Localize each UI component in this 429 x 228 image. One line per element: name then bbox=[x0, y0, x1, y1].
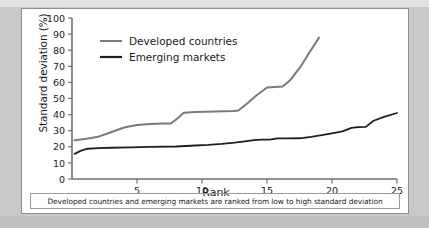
y-tick-label: 20 bbox=[53, 141, 65, 152]
y-tick-label: 70 bbox=[53, 61, 65, 72]
page-background-top-strip bbox=[0, 0, 429, 7]
y-tick-label: 10 bbox=[53, 158, 65, 169]
y-tick-label: 40 bbox=[53, 109, 65, 120]
figure-caption-band: Developed countries and emerging markets… bbox=[30, 193, 400, 209]
page-background-bottom-strip bbox=[0, 216, 429, 228]
legend-label-0: Developed countries bbox=[129, 35, 237, 47]
figure-root: 0102030405060708090100 510152025 Develop… bbox=[0, 0, 429, 228]
series-line-emerging-markets bbox=[75, 113, 397, 154]
y-tick-label: 90 bbox=[53, 29, 65, 40]
figure-caption-text: Developed countries and emerging markets… bbox=[47, 197, 382, 206]
chart-panel: 0102030405060708090100 510152025 Develop… bbox=[21, 8, 409, 214]
legend-label-1: Emerging markets bbox=[129, 51, 225, 63]
y-tick-label: 80 bbox=[53, 45, 65, 56]
chart-legend: Developed countriesEmerging markets bbox=[100, 35, 237, 63]
y-axis-label: Standard deviation (%) bbox=[37, 8, 49, 138]
data-series-group bbox=[75, 38, 397, 154]
y-tick-label: 60 bbox=[53, 77, 65, 88]
line-chart: 0102030405060708090100 510152025 Develop… bbox=[22, 9, 407, 212]
y-tick-label: 0 bbox=[59, 174, 65, 185]
y-tick-label: 50 bbox=[53, 93, 65, 104]
y-tick-label: 100 bbox=[47, 13, 65, 24]
y-tick-label: 30 bbox=[53, 125, 65, 136]
y-axis-ticks: 0102030405060708090100 bbox=[47, 13, 72, 185]
